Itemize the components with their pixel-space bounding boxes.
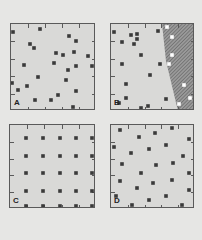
panel-label: A — [14, 99, 20, 107]
filled-square-marker — [118, 179, 122, 183]
filled-square-marker — [41, 136, 45, 140]
filled-square-marker — [61, 53, 65, 57]
filled-square-marker — [181, 154, 185, 158]
filled-square-marker — [90, 154, 94, 158]
filled-square-marker — [56, 93, 60, 97]
filled-square-marker — [74, 171, 78, 175]
filled-square-marker — [90, 136, 94, 140]
filled-square-marker — [187, 171, 191, 175]
white-square-marker — [188, 96, 192, 100]
filled-square-marker — [33, 98, 37, 102]
filled-square-marker — [187, 188, 191, 192]
filled-square-marker — [120, 62, 124, 66]
filled-square-marker — [146, 104, 150, 108]
filled-square-marker — [139, 106, 143, 110]
filled-square-marker — [147, 147, 151, 151]
filled-square-marker — [86, 54, 90, 58]
filled-square-marker — [170, 126, 174, 130]
filled-square-marker — [148, 73, 152, 77]
filled-square-marker — [170, 178, 174, 182]
filled-square-marker — [120, 162, 124, 166]
filled-square-marker — [64, 78, 68, 82]
filled-square-marker — [58, 136, 62, 140]
filled-square-marker — [58, 154, 62, 158]
panel-plot-area — [11, 24, 95, 110]
filled-square-marker — [112, 145, 116, 149]
filled-square-marker — [24, 189, 28, 193]
filled-square-marker — [132, 42, 136, 46]
filled-square-marker — [74, 89, 78, 93]
filled-square-marker — [154, 163, 158, 167]
filled-square-marker — [129, 33, 133, 37]
filled-square-marker — [41, 171, 45, 175]
axis-ticks — [11, 24, 95, 110]
filled-square-marker — [151, 181, 155, 185]
panel-label: D — [114, 197, 120, 205]
filled-square-marker — [135, 32, 139, 36]
filled-square-marker — [11, 81, 14, 85]
white-square-marker — [182, 83, 186, 87]
panel-label: C — [13, 197, 19, 205]
white-square-marker — [167, 62, 171, 66]
filled-square-marker — [41, 189, 45, 193]
filled-square-marker — [74, 39, 78, 43]
filled-square-marker — [147, 198, 151, 202]
filled-square-marker — [58, 171, 62, 175]
panel-plot-area — [111, 24, 194, 110]
filled-square-marker — [41, 204, 45, 208]
filled-square-marker — [171, 161, 175, 165]
filled-square-marker — [90, 64, 94, 68]
filled-square-marker — [22, 63, 26, 67]
panel-a-random-distribution: A — [10, 23, 95, 110]
white-square-marker — [170, 53, 174, 57]
white-square-marker — [170, 35, 174, 39]
filled-square-marker — [24, 171, 28, 175]
filled-square-marker — [137, 135, 141, 139]
filled-square-marker — [74, 204, 78, 208]
filled-square-marker — [49, 98, 53, 102]
filled-square-marker — [156, 29, 160, 33]
filled-square-marker — [74, 189, 78, 193]
filled-square-marker — [58, 189, 62, 193]
filled-square-marker — [74, 136, 78, 140]
filled-square-marker — [90, 189, 94, 193]
filled-square-marker — [153, 131, 157, 135]
panel-plot-area — [111, 125, 194, 208]
panel-label: B — [114, 99, 120, 107]
filled-square-marker — [164, 97, 168, 101]
panel-plot-area — [10, 125, 95, 208]
panel-d-uniform-distribution: D — [110, 124, 194, 208]
filled-square-marker — [124, 96, 128, 100]
filled-square-marker — [90, 204, 94, 208]
filled-square-marker — [139, 53, 143, 57]
filled-square-marker — [130, 203, 134, 207]
white-square-marker — [165, 25, 169, 29]
filled-square-marker — [187, 137, 191, 141]
filled-square-marker — [54, 51, 58, 55]
filled-square-marker — [25, 84, 29, 88]
filled-square-marker — [158, 62, 162, 66]
filled-square-marker — [139, 171, 143, 175]
filled-square-marker — [118, 128, 122, 132]
filled-square-marker — [24, 204, 28, 208]
filled-square-marker — [32, 46, 36, 50]
filled-square-marker — [41, 154, 45, 158]
white-square-marker — [177, 102, 181, 106]
filled-square-marker — [129, 151, 133, 155]
filled-square-marker — [124, 82, 128, 86]
filled-square-marker — [28, 42, 32, 46]
panel-b-hatched-distribution: B — [110, 23, 194, 110]
filled-square-marker — [74, 154, 78, 158]
filled-square-marker — [164, 143, 168, 147]
filled-square-marker — [135, 37, 139, 41]
filled-square-marker — [120, 40, 124, 44]
filled-square-marker — [36, 75, 40, 79]
filled-square-marker — [71, 105, 75, 109]
filled-square-marker — [66, 68, 70, 72]
filled-square-marker — [74, 64, 78, 68]
filled-square-marker — [58, 204, 62, 208]
filled-square-marker — [38, 27, 42, 31]
axis-ticks — [111, 125, 194, 208]
filled-square-marker — [24, 154, 28, 158]
filled-square-marker — [24, 136, 28, 140]
